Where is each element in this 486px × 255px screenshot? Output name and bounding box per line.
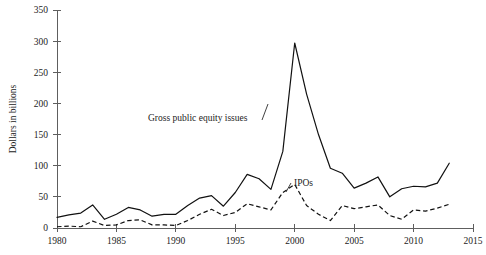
series-label-ipos: IPOs xyxy=(294,178,313,188)
chart-container: 050100150200250300350 198019851990199520… xyxy=(0,0,486,255)
series-gross-public-equity-issues xyxy=(57,43,449,219)
x-tick-label: 1990 xyxy=(166,236,185,246)
y-tick-label: 250 xyxy=(34,68,49,78)
x-tick-label: 2010 xyxy=(404,236,423,246)
y-tick-label: 50 xyxy=(39,192,49,202)
x-tick-label: 1995 xyxy=(226,236,245,246)
y-axis-title: Dollars in billions xyxy=(8,84,18,153)
y-tick-label: 200 xyxy=(34,99,49,109)
series-ipos xyxy=(57,184,449,226)
x-tick-label: 2000 xyxy=(285,236,304,246)
gross-label-leader-line xyxy=(262,104,268,120)
x-tick-label: 2015 xyxy=(464,236,483,246)
y-tick-label: 100 xyxy=(34,161,49,171)
y-tick-label: 150 xyxy=(34,130,49,140)
series-label-gross-public-equity-issues: Gross public equity issues xyxy=(148,113,248,123)
y-tick-label: 350 xyxy=(34,5,49,15)
x-axis-ticks: 19801985199019952000200520102015 xyxy=(48,224,483,246)
x-tick-label: 2005 xyxy=(345,236,364,246)
y-tick-label: 300 xyxy=(34,37,49,47)
y-tick-label: 0 xyxy=(43,223,48,233)
line-chart: 050100150200250300350 198019851990199520… xyxy=(0,0,486,255)
x-tick-label: 1985 xyxy=(107,236,126,246)
x-tick-label: 1980 xyxy=(48,236,67,246)
